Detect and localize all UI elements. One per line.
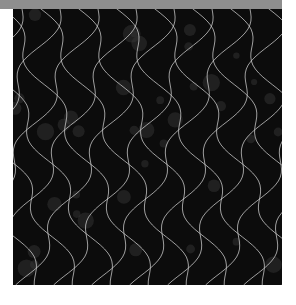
wavy-lattice-pattern <box>13 9 282 285</box>
fabric-swatch <box>13 9 282 285</box>
top-gray-band <box>0 0 282 9</box>
